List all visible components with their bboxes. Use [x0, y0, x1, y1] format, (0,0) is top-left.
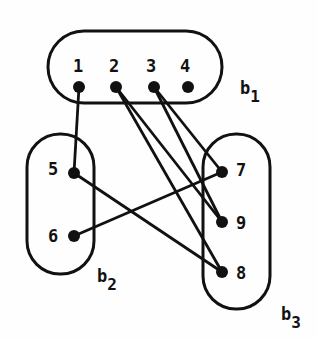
edge-3-9	[154, 87, 222, 222]
edge-5-8	[74, 173, 222, 272]
vertex-label-1: 1	[73, 56, 83, 76]
edge-6-7	[74, 172, 222, 236]
vertex-label-3: 3	[146, 56, 156, 76]
edge-1-5	[74, 87, 79, 173]
vertex-9	[216, 216, 228, 228]
diagram-canvas: 1 2 3 4 5 6 7 9 8 b1 b2 b3	[0, 0, 317, 340]
vertex-5	[68, 167, 80, 179]
vertex-4	[182, 81, 194, 93]
edge-3-7	[154, 87, 222, 172]
vertex-2	[110, 81, 122, 93]
graph-diagram: 1 2 3 4 5 6 7 9 8 b1 b2 b3	[0, 0, 317, 340]
vertex-6	[68, 230, 80, 242]
vertex-1	[73, 81, 85, 93]
group-label-b1: b1	[240, 78, 260, 106]
vertex-3	[148, 81, 160, 93]
group-label-b2: b2	[97, 266, 117, 294]
vertex-label-6: 6	[48, 226, 58, 246]
vertex-label-5: 5	[48, 159, 58, 179]
vertex-label-4: 4	[180, 56, 190, 76]
vertex-8	[216, 266, 228, 278]
vertex-label-2: 2	[109, 56, 119, 76]
vertex-7	[216, 166, 228, 178]
edges	[74, 87, 222, 272]
vertex-label-7: 7	[236, 160, 246, 180]
group-b2-outline	[27, 134, 94, 274]
group-label-b3: b3	[281, 304, 301, 332]
vertex-label-9: 9	[236, 213, 246, 233]
vertex-label-8: 8	[236, 263, 246, 283]
